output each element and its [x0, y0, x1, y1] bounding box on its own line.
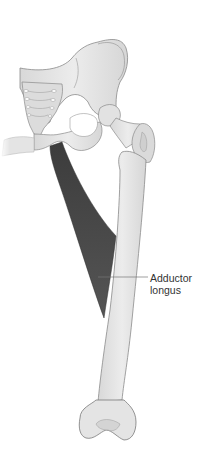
obturator-foramen: [70, 114, 98, 137]
anatomy-illustration: [0, 0, 203, 457]
label-line-2: longus: [150, 284, 192, 296]
left-fade-overlay: [0, 60, 40, 160]
adductor-longus-muscle: [50, 142, 116, 318]
label-line-1: Adductor: [150, 272, 192, 284]
adductor-longus-label: Adductor longus: [150, 272, 192, 296]
